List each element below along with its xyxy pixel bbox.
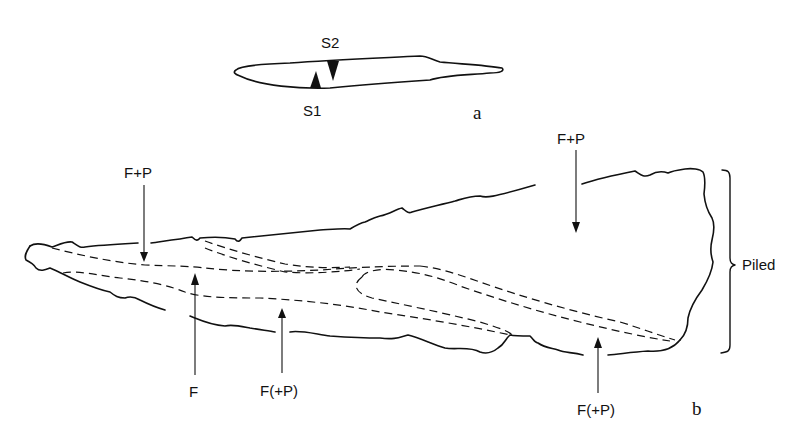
label-f-plus-p-right: F+P: [557, 130, 585, 147]
s2-label: S2: [321, 34, 339, 51]
panel-b-label: b: [692, 398, 702, 419]
label-f: F: [189, 383, 198, 400]
arrow-down-icon: [572, 222, 580, 233]
layer-line-2: [205, 241, 350, 268]
layer-loop: [356, 269, 670, 341]
panel-b-outline-top-mid: [151, 185, 535, 243]
piled-brace: [721, 170, 735, 353]
panel-b-outline-top-right: [582, 169, 714, 340]
panel-b-outline-bottom: [25, 246, 680, 355]
panel-b: F+P F+P F F(+P) F(+P) Piled b: [25, 130, 775, 419]
label-f-plus-p-left: F+P: [124, 164, 152, 181]
s1-marker-icon: [310, 71, 321, 88]
s2-marker-icon: [327, 61, 339, 81]
label-f-paren-p-right: F(+P): [577, 401, 615, 418]
layer-line-5: [420, 266, 675, 340]
diagram-canvas: S2 S1 a F+P F+P F F(+P): [0, 0, 809, 429]
arrow-up-icon: [278, 308, 286, 318]
s1-label: S1: [303, 102, 321, 119]
arrow-up-icon: [191, 273, 199, 285]
layer-line-4: [63, 272, 510, 335]
panel-a-label: a: [473, 102, 482, 123]
label-f-paren-p-middle: F(+P): [260, 382, 298, 399]
panel-a-outline: [234, 56, 503, 88]
piled-label: Piled: [742, 256, 775, 273]
panel-a: S2 S1 a: [234, 34, 503, 123]
arrow-down-icon: [140, 252, 148, 262]
panel-b-outline-top-left: [30, 242, 138, 247]
arrow-up-icon: [594, 337, 602, 348]
